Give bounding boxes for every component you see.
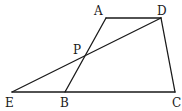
- label-p: P: [73, 43, 81, 57]
- label-d: D: [157, 4, 167, 18]
- label-b: B: [60, 96, 69, 110]
- label-c: C: [172, 96, 181, 110]
- label-e: E: [5, 96, 14, 110]
- geometry-diagram: A D P E B C: [0, 0, 182, 111]
- label-a: A: [93, 4, 103, 18]
- segment-dc: [161, 18, 175, 92]
- segment-de: [12, 18, 161, 92]
